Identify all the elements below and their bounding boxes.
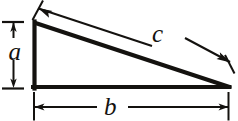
label-c: c: [152, 20, 163, 47]
label-b: b: [104, 93, 117, 120]
label-a: a: [9, 38, 22, 65]
triangle-figure: a b: [0, 0, 238, 121]
figure-canvas: a b: [0, 0, 238, 121]
